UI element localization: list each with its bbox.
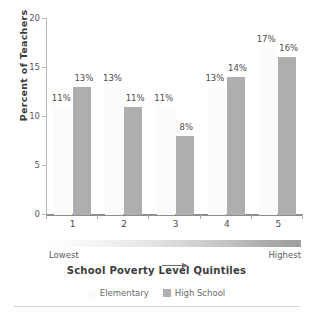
bar-value-label: 16% [279,44,298,53]
scale-label-highest: Highest [268,250,301,260]
bar-value-label: 13% [103,74,122,83]
bar-group-5: 17% 16% [252,18,303,215]
legend-item-elementary[interactable]: Elementary [88,288,149,298]
bar-elementary-4[interactable]: 13% [208,87,226,215]
plot-area: 20 15 10 5 0 11% 13% 13% 11 [46,18,303,215]
x-label-5: 5 [253,219,304,229]
y-tick-label-10: 10 [18,112,40,121]
bar-value-label: 11% [52,94,71,103]
arrow-right-icon [162,254,188,261]
bar-elementary-1[interactable]: 11% [54,107,72,215]
y-tick-label-5: 5 [18,161,40,170]
x-label-2: 2 [98,219,149,229]
bar-value-label: 14% [228,64,247,73]
bar-highschool-3[interactable]: 8% [176,136,194,215]
bar-highschool-2[interactable]: 11% [124,107,142,215]
legend-label-high-school: High School [175,288,225,298]
bar-highschool-1[interactable]: 13% [73,87,91,215]
y-tick-label-15: 15 [18,63,40,72]
bar-value-label: 13% [205,74,224,83]
legend-label-elementary: Elementary [100,288,149,298]
bar-value-label: 17% [257,35,276,44]
bar-value-label: 11% [126,94,145,103]
bar-group-1: 11% 13% [47,18,98,215]
bar-value-label: 13% [74,74,93,83]
bar-value-label: 8% [180,123,194,132]
gradient-scale-labels: Lowest Highest [49,250,301,262]
x-label-4: 4 [201,219,252,229]
bar-group-4: 13% 14% [201,18,252,215]
bar-elementary-3[interactable]: 11% [157,107,175,215]
legend-swatch-high-school-icon [163,289,171,297]
legend-swatch-elementary-icon [88,289,96,297]
bar-highschool-4[interactable]: 14% [227,77,245,215]
x-label-3: 3 [150,219,201,229]
y-tick-label-20: 20 [18,14,40,23]
bar-value-label: 11% [154,94,173,103]
legend-item-high-school[interactable]: High School [163,288,225,298]
bar-groups: 11% 13% 13% 11% 11% 8% [47,18,303,215]
y-tick-label-0: 0 [18,210,40,219]
poverty-gradient-strip [49,240,301,247]
bar-group-3: 11% 8% [149,18,200,215]
x-axis-title: School Poverty Level Quintiles [0,265,313,276]
scale-label-lowest: Lowest [49,250,79,260]
chart-figure: Percent of Teachers 20 15 10 5 0 11% 13% [0,0,313,316]
bar-group-2: 13% 11% [98,18,149,215]
bar-highschool-5[interactable]: 16% [278,57,296,215]
bar-elementary-5[interactable]: 17% [259,48,277,215]
bar-elementary-2[interactable]: 13% [105,87,123,215]
chart-legend: Elementary High School [0,288,313,298]
x-axis-category-labels: 1 2 3 4 5 [47,219,304,229]
footer-divider [14,306,300,307]
x-label-1: 1 [47,219,98,229]
